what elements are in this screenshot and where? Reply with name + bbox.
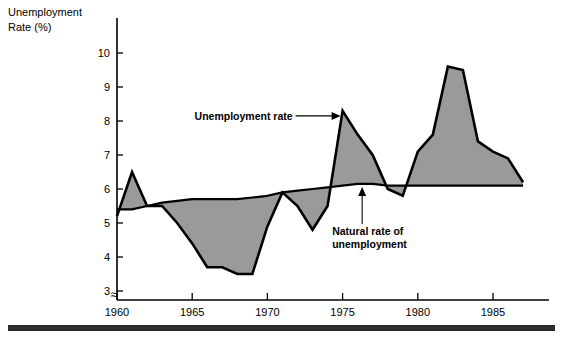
x-tick-label: 1980 bbox=[406, 306, 430, 318]
x-tick-label: 1970 bbox=[255, 306, 279, 318]
unemployment-chart: 345678910 ≈ 196019651970197519801985 Une… bbox=[0, 0, 563, 341]
y-tick-label: 9 bbox=[104, 81, 110, 93]
y-axis-title-line-1: Unemployment bbox=[8, 6, 82, 18]
x-axis-ticks: 196019651970197519801985 bbox=[105, 293, 505, 318]
bottom-rule bbox=[8, 325, 555, 331]
y-axis-title-line-2: Rate (%) bbox=[8, 21, 51, 33]
x-tick-label: 1975 bbox=[330, 306, 354, 318]
y-tick-label: 10 bbox=[98, 47, 110, 59]
gap-area-segment bbox=[117, 67, 523, 274]
unemployment-rate-annotation: Unemployment rate bbox=[195, 110, 341, 122]
unemployment-rate-annotation-label: Unemployment rate bbox=[195, 110, 293, 122]
y-tick-label: 4 bbox=[104, 251, 110, 263]
y-axis-ticks: 345678910 bbox=[98, 47, 123, 297]
x-tick-label: 1960 bbox=[105, 306, 129, 318]
x-tick-label: 1965 bbox=[180, 306, 204, 318]
y-axis: 345678910 ≈ bbox=[98, 18, 123, 302]
y-tick-label: 5 bbox=[104, 217, 110, 229]
up-arrow-icon bbox=[358, 187, 366, 196]
y-axis-title: Unemployment Rate (%) bbox=[8, 6, 82, 33]
natural-rate-annotation-label-line-1: Natural rate of bbox=[332, 225, 404, 237]
plot-area bbox=[117, 67, 523, 274]
y-tick-label: 6 bbox=[104, 183, 110, 195]
x-axis: 196019651970197519801985 bbox=[105, 293, 549, 318]
y-tick-label: 3 bbox=[104, 285, 110, 297]
gap-area-fill bbox=[117, 67, 523, 274]
y-tick-label: 7 bbox=[104, 149, 110, 161]
unemployment-rate-figure: 345678910 ≈ 196019651970197519801985 Une… bbox=[0, 0, 563, 341]
right-arrow-icon bbox=[332, 112, 341, 120]
y-tick-label: 8 bbox=[104, 115, 110, 127]
natural-rate-annotation-label-line-2: unemployment bbox=[332, 238, 407, 250]
natural-rate-annotation: Natural rate of unemployment bbox=[332, 187, 407, 250]
x-tick-label: 1985 bbox=[481, 306, 505, 318]
